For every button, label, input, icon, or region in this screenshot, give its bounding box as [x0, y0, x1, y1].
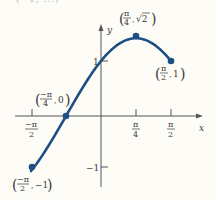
point-end	[168, 58, 175, 65]
y-tick-1: 1	[93, 57, 99, 67]
label-max: ( π4 , √2 )	[119, 9, 156, 27]
svg-text:,: ,	[31, 181, 34, 190]
svg-text:,: ,	[132, 15, 135, 24]
x-tick-neg-pi-2: −π2	[25, 120, 38, 139]
x-tick-pi-4: π4	[132, 120, 140, 139]
y-tick-neg1: −1	[86, 163, 99, 173]
svg-text:2: 2	[20, 184, 25, 193]
svg-text:√2: √2	[136, 14, 147, 24]
svg-text:1: 1	[173, 69, 179, 79]
svg-text:,: ,	[169, 70, 172, 79]
svg-text:π: π	[133, 120, 138, 129]
svg-text:2: 2	[168, 130, 173, 139]
svg-text:): )	[151, 11, 156, 27]
svg-text:π: π	[168, 120, 173, 129]
x-axis-label: x	[199, 123, 204, 133]
svg-text:4: 4	[124, 18, 129, 27]
svg-text:): )	[47, 177, 52, 193]
svg-text:π: π	[124, 9, 129, 18]
label-root: ( −π4 , 0 )	[35, 90, 70, 108]
svg-text:,: ,	[54, 96, 57, 105]
svg-text:0: 0	[58, 95, 64, 105]
svg-text:π: π	[161, 64, 166, 73]
svg-text:): )	[65, 92, 70, 108]
svg-text:(: (	[155, 66, 160, 82]
point-start	[29, 164, 36, 171]
point-root	[63, 113, 70, 120]
svg-text:4: 4	[43, 99, 48, 108]
label-start: ( −π2 , −1 )	[12, 175, 52, 193]
x-tick-pi-2: π2	[167, 120, 175, 139]
svg-text:2: 2	[161, 73, 166, 82]
function-graph: x y 1 −1 −π2 π4 π2 ( π4 , √2 ) ( π2 , 1 …	[0, 0, 216, 201]
point-max	[133, 33, 140, 40]
svg-text:2: 2	[29, 130, 34, 139]
y-axis-arrow-icon	[99, 24, 104, 31]
svg-text:): )	[180, 66, 185, 82]
y-axis-label: y	[106, 25, 113, 35]
svg-text:−π: −π	[17, 175, 29, 184]
x-axis-arrow-icon	[196, 114, 203, 119]
svg-text:−π: −π	[25, 120, 37, 129]
label-end: ( π2 , 1 )	[155, 64, 185, 82]
svg-text:4: 4	[133, 130, 138, 139]
svg-text:−π: −π	[40, 90, 52, 99]
